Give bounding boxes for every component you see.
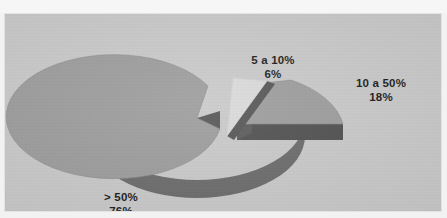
data-label-gt50-name: > 50% — [61, 190, 181, 204]
data-label-5a10: 5 a 10% 6% — [213, 53, 333, 81]
slice-gt50-top — [6, 55, 220, 179]
data-label-10a50: 10 a 50% 18% — [321, 76, 441, 104]
cut-off-caption — [6, 0, 186, 4]
data-label-gt50: > 50% 76% — [61, 190, 181, 212]
data-label-5a10-name: 5 a 10% — [213, 53, 333, 67]
pie-chart-svg — [5, 14, 442, 212]
data-label-5a10-value: 6% — [213, 67, 333, 81]
page-background — [0, 0, 447, 13]
chart-frame: 5 a 10% 6% 10 a 50% 18% > 50% 76% — [4, 13, 442, 212]
pie-chart: 5 a 10% 6% 10 a 50% 18% > 50% 76% — [5, 14, 441, 211]
data-label-10a50-value: 18% — [321, 90, 441, 104]
figure-page: 5 a 10% 6% 10 a 50% 18% > 50% 76% — [0, 0, 447, 218]
slice-10a50-side — [237, 124, 343, 140]
data-label-10a50-name: 10 a 50% — [321, 76, 441, 90]
data-label-gt50-value: 76% — [61, 204, 181, 212]
